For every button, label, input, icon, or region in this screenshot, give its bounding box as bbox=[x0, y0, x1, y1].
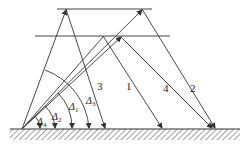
ionosphere-reflection-diagram: 3 1 4 2 Δ1 Δ2 Δ3 Δ4 bbox=[0, 0, 250, 152]
ray-label-4: 4 bbox=[163, 82, 169, 94]
ray-1 bbox=[22, 36, 162, 129]
ray-label-2: 2 bbox=[190, 82, 196, 94]
angle-label-delta-3: Δ3 bbox=[85, 95, 96, 108]
ray-label-1: 1 bbox=[126, 80, 132, 92]
ground-hatching bbox=[10, 129, 240, 140]
ray-label-3: 3 bbox=[97, 80, 103, 92]
angle-label-delta-4: Δ4 bbox=[36, 116, 47, 129]
ray-3 bbox=[22, 9, 105, 129]
angle-label-delta-2: Δ2 bbox=[51, 111, 62, 124]
ray-2 bbox=[22, 9, 215, 129]
